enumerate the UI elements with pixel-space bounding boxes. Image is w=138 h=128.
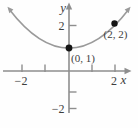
vertex-point-dot	[66, 45, 73, 52]
parabola-figure: y x 2 −2 −2 2 (0, 1) (2, 2)	[0, 0, 138, 128]
y-axis-label: y	[58, 0, 66, 15]
x-tick-label-pos2: 2	[111, 74, 117, 88]
y-tick-label-pos2: 2	[59, 19, 65, 33]
marked-point-dot	[111, 20, 117, 26]
vertex-point-label: (0, 1)	[71, 52, 95, 65]
marked-point-label: (2, 2)	[104, 28, 128, 41]
x-axis-label: x	[120, 72, 127, 87]
x-tick-label-neg2: −2	[15, 74, 28, 88]
y-axis-arrow-icon	[66, 3, 72, 10]
y-tick-label-neg2: −2	[52, 102, 65, 116]
graph-canvas: y x 2 −2 −2 2 (0, 1) (2, 2)	[0, 0, 138, 128]
